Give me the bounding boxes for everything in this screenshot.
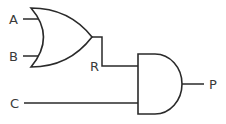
label-b: B [9,49,18,64]
label-a: A [9,12,18,27]
and-gate [138,54,182,114]
label-p: P [209,77,217,92]
logic-circuit-diagram: A B R C P [0,0,226,124]
label-c: C [10,96,19,111]
label-r: R [90,59,99,74]
or-gate [31,8,92,67]
